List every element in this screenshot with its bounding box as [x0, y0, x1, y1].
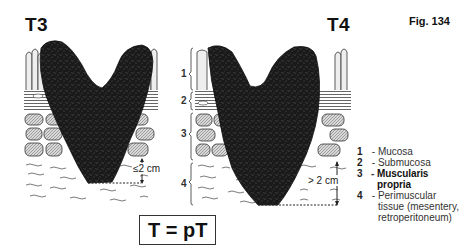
layer-braces [189, 48, 193, 205]
legend-item-submucosa: 2 - Submucosa [357, 157, 459, 168]
t4-measurement: > 2 cm [307, 175, 339, 186]
figure-label: Fig. 134 [409, 15, 450, 27]
t3-title: T3 [25, 14, 48, 36]
t3-measurement: ≤2 cm [132, 163, 161, 174]
formula-box: T = pT [139, 215, 216, 245]
layer-number-1: 1 [181, 68, 187, 79]
legend-item-mucosa: 1 - Mucosa [357, 146, 459, 157]
layer-number-4: 4 [181, 178, 187, 189]
legend-item-perimuscular-line3: retroperitoneum) [357, 212, 459, 223]
legend-item-perimuscular: 4 - Perimuscular [357, 190, 459, 201]
t4-title: T4 [327, 14, 350, 36]
layer-legend: 1 - Mucosa 2 - Submucosa 3 - Muscularis … [357, 146, 459, 223]
legend-item-muscularis-propria: 3 - Muscularis propria [357, 168, 459, 190]
legend-item-perimuscular-line2: tissue (mesentery, [357, 201, 459, 212]
layer-number-2: 2 [181, 95, 187, 106]
layer-number-3: 3 [181, 128, 187, 139]
